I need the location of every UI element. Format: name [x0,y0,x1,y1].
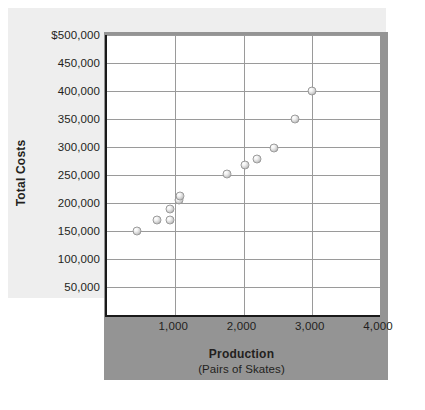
scatter-chart-figure: $500,000450,000400,000350,000300,000250,… [0,0,425,410]
data-point [270,144,279,153]
y-axis-title: Total Costs [12,128,30,218]
data-point [253,155,262,164]
y-axis-tick-label: 400,000 [22,85,100,97]
gridline-vertical [175,35,176,315]
data-point [152,215,161,224]
x-axis-tick-label: 4,000 [363,320,392,332]
y-axis-tick-label: 150,000 [22,225,100,237]
data-point [133,227,142,236]
data-point [223,169,232,178]
y-axis-tick-label: 350,000 [22,113,100,125]
y-axis-tick-labels: $500,000450,000400,000350,000300,000250,… [18,35,100,315]
data-point [291,115,300,124]
plot-canvas [107,35,380,315]
x-axis-tick-label: 2,000 [227,320,256,332]
y-axis-tick-label: 300,000 [22,141,100,153]
data-point [176,192,185,201]
gridline-vertical [244,35,245,315]
y-axis-tick-label: 450,000 [22,57,100,69]
x-axis-title-text: Production [105,347,378,362]
data-point [165,204,174,213]
y-axis-tick-label: 200,000 [22,197,100,209]
y-axis-tick-label: 50,000 [22,281,100,293]
data-point [240,160,249,169]
x-axis-tick-label: 3,000 [295,320,324,332]
x-axis-tick-label: 1,000 [159,320,188,332]
gridline-vertical [312,35,313,315]
y-axis-tick-label: $500,000 [22,29,100,41]
x-axis-title: Production (Pairs of Skates) [105,347,378,377]
y-axis-tick-label: 250,000 [22,169,100,181]
data-point [165,215,174,224]
x-axis-tick-labels: 1,0002,0003,0004,000 [105,318,378,340]
x-axis-subtitle-text: (Pairs of Skates) [105,362,378,377]
data-point [307,87,316,96]
plot-area [105,35,380,317]
y-axis-title-text: Total Costs [14,140,28,207]
y-axis-tick-label: 100,000 [22,253,100,265]
